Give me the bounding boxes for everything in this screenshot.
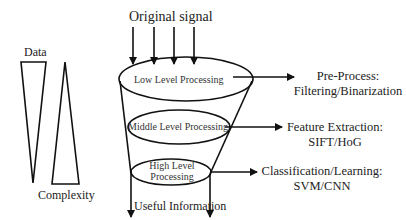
middle-level-output-line1: Feature Extraction: bbox=[282, 120, 388, 135]
complexity-label: Complexity bbox=[38, 189, 95, 202]
middle-level-output: Feature Extraction: SIFT/HoG bbox=[282, 120, 388, 150]
low-level-output: Pre-Process: Filtering/Binarization bbox=[290, 69, 406, 99]
high-level-label-line2: Processing bbox=[140, 172, 204, 183]
data-triangle bbox=[21, 62, 46, 183]
high-level-label-line1: High Level bbox=[140, 161, 204, 172]
complexity-triangle bbox=[52, 62, 79, 184]
low-level-label: Low Level Processing bbox=[134, 74, 223, 85]
high-level-output: Classification/Learning: SVM/CNN bbox=[261, 164, 383, 194]
high-level-label: High Level Processing bbox=[140, 161, 204, 182]
low-level-output-line1: Pre-Process: bbox=[290, 69, 406, 84]
high-level-output-line2: SVM/CNN bbox=[261, 179, 383, 194]
input-label: Original signal bbox=[129, 9, 213, 24]
output-label: Useful Information bbox=[134, 200, 226, 213]
data-label: Data bbox=[24, 46, 47, 59]
middle-level-output-line2: SIFT/HoG bbox=[282, 135, 388, 150]
low-level-output-line2: Filtering/Binarization bbox=[290, 84, 406, 99]
middle-level-label: Middle Level Processing bbox=[128, 121, 228, 132]
high-level-output-line1: Classification/Learning: bbox=[261, 164, 383, 179]
